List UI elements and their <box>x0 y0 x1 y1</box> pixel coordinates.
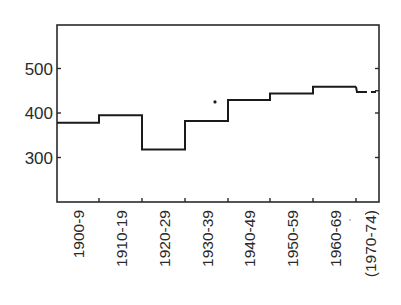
x-tick-label: 1910-19 <box>113 210 130 267</box>
annotation-dot <box>213 100 216 103</box>
step-series <box>57 87 379 150</box>
x-tick-label: 1900-9 <box>70 210 87 258</box>
x-tick-label: 1940-49 <box>241 210 258 267</box>
step-chart: 300400500 1900-91910-191920-291930-39194… <box>0 0 401 305</box>
y-tick-label: 400 <box>25 104 53 123</box>
x-tick-label: 1920-29 <box>156 210 173 267</box>
x-tick-label: 1950-59 <box>284 210 301 267</box>
y-axis-ticks <box>57 69 379 158</box>
x-tick-label: 1960-69 <box>327 210 344 267</box>
plot-frame <box>57 25 379 202</box>
y-axis-labels: 300400500 <box>25 60 53 168</box>
x-tick-label: 1930-39 <box>199 210 216 267</box>
y-tick-label: 500 <box>25 60 53 79</box>
y-tick-label: 300 <box>25 149 53 168</box>
x-tick-label: (1970-74) <box>362 210 379 277</box>
step-line-solid <box>57 87 356 150</box>
x-axis-labels: 1900-91910-191920-291930-391940-491950-5… <box>70 210 379 277</box>
